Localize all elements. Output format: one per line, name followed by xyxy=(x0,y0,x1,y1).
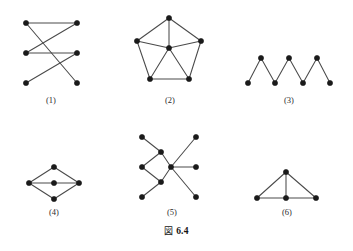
graph-edge xyxy=(189,41,201,79)
graph-figure-canvas: (1)(2)(3)(4)(5)(6) xyxy=(0,0,353,251)
graph-vertex xyxy=(134,38,139,43)
graph-vertex xyxy=(300,80,305,85)
panel-label-panel-5: (5) xyxy=(167,207,177,217)
graph-edge xyxy=(26,23,77,53)
graph-vertex xyxy=(166,45,171,50)
graph-edge xyxy=(142,137,161,152)
figure-caption: 図 6.4 xyxy=(0,224,353,237)
graph-vertex xyxy=(283,169,288,174)
figure-container: (1)(2)(3)(4)(5)(6) 図 6.4 xyxy=(0,0,353,251)
graph-edge xyxy=(286,172,316,198)
graph-edge xyxy=(275,58,289,83)
graph-vertex xyxy=(51,180,56,185)
graph-vertex xyxy=(26,180,31,185)
graph-vertex xyxy=(193,134,198,139)
graph-vertex xyxy=(139,134,144,139)
graph-vertex xyxy=(158,149,163,154)
graph-vertex xyxy=(158,179,163,184)
graph-edge xyxy=(137,41,169,48)
graph-edge xyxy=(54,167,79,183)
graph-edge xyxy=(54,183,79,199)
graph-edge xyxy=(171,167,196,197)
graph-edge xyxy=(137,18,169,41)
vertices-layer xyxy=(23,15,332,201)
graph-vertex xyxy=(23,50,28,55)
graph-edge xyxy=(142,167,161,182)
panel-label-panel-6: (6) xyxy=(282,207,292,217)
graph-vertex xyxy=(139,194,144,199)
graph-edge xyxy=(29,183,54,199)
graph-vertex xyxy=(193,194,198,199)
figure-caption-mark: 図 xyxy=(164,226,173,236)
graph-vertex xyxy=(166,15,171,20)
panel-label-panel-2: (2) xyxy=(165,95,175,105)
graph-edge xyxy=(169,48,189,79)
figure-caption-number: 6.4 xyxy=(176,226,188,236)
graph-edge xyxy=(261,58,275,83)
graph-edge xyxy=(137,41,150,79)
graph-vertex xyxy=(198,38,203,43)
panel-label-panel-4: (4) xyxy=(49,207,59,217)
graph-vertex xyxy=(147,76,152,81)
graph-vertex xyxy=(51,164,56,169)
graph-edge xyxy=(257,172,286,198)
graph-edge xyxy=(289,58,303,83)
graph-vertex xyxy=(76,180,81,185)
graph-vertex xyxy=(314,55,319,60)
graph-vertex xyxy=(272,80,277,85)
graph-vertex xyxy=(51,196,56,201)
graph-vertex xyxy=(74,20,79,25)
graph-vertex xyxy=(23,80,28,85)
graph-edge xyxy=(171,137,196,167)
graph-vertex xyxy=(74,50,79,55)
graph-vertex xyxy=(74,80,79,85)
graph-vertex xyxy=(186,76,191,81)
graph-edge xyxy=(142,182,161,197)
graph-vertex xyxy=(193,164,198,169)
graph-edge xyxy=(29,167,54,183)
graph-edge xyxy=(150,48,169,79)
graph-vertex xyxy=(254,195,259,200)
panel-label-panel-1: (1) xyxy=(46,95,56,105)
graph-vertex xyxy=(258,55,263,60)
graph-vertex xyxy=(286,55,291,60)
graph-vertex xyxy=(139,164,144,169)
graph-edge xyxy=(26,53,77,83)
graph-edge xyxy=(303,58,317,83)
graph-vertex xyxy=(283,195,288,200)
graph-edge xyxy=(248,58,261,83)
graph-vertex xyxy=(313,195,318,200)
graph-vertex xyxy=(23,20,28,25)
graph-edge xyxy=(142,152,161,167)
graph-edge xyxy=(317,58,330,83)
graph-vertex xyxy=(327,80,332,85)
graph-edge xyxy=(169,18,201,41)
panel-label-panel-3: (3) xyxy=(284,95,294,105)
graph-vertex xyxy=(168,164,173,169)
graph-edge xyxy=(169,41,201,48)
graph-vertex xyxy=(245,80,250,85)
